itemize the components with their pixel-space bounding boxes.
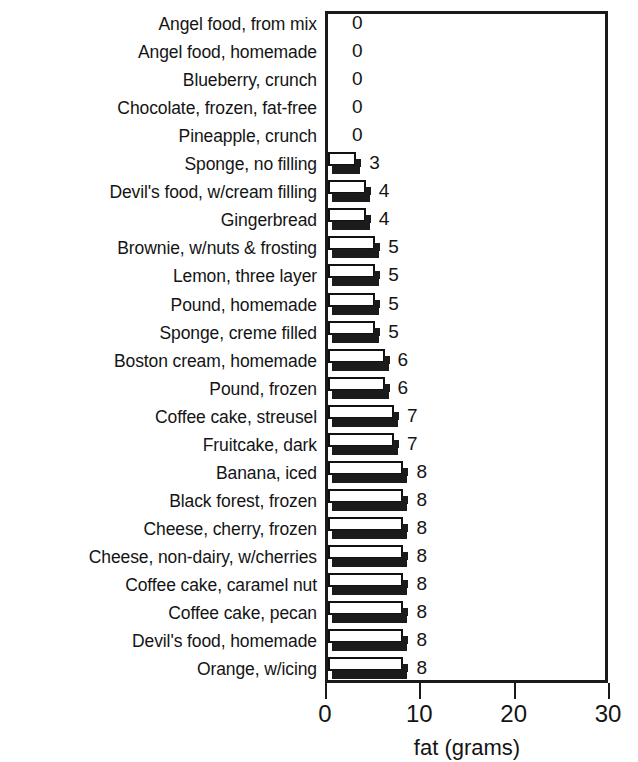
bar-value-label: 0: [352, 66, 363, 94]
bar-end-cap: [355, 159, 361, 167]
bar-shadow-face: [332, 670, 407, 679]
category-label: Orange, w/icing: [197, 655, 317, 683]
x-axis-tick-label: 30: [595, 700, 622, 728]
bar-end-cap: [402, 608, 408, 616]
bar-end-cap: [393, 440, 399, 448]
bar-face: [328, 321, 375, 335]
bar-value-label: 4: [379, 206, 390, 234]
category-label: Lemon, three layer: [173, 262, 317, 290]
bar-face: [328, 461, 403, 475]
bar-face: [328, 573, 403, 587]
bar-row: Cheese, cherry, frozen8: [0, 515, 638, 543]
x-axis-tick-label: 10: [406, 700, 433, 728]
category-label: Angel food, homemade: [138, 38, 317, 66]
category-label: Boston cream, homemade: [114, 347, 317, 375]
bar-row: Orange, w/icing8: [0, 655, 638, 683]
bar-face: [328, 293, 375, 307]
bar-value-label: 5: [388, 319, 399, 347]
bar-row: Pound, frozen6: [0, 375, 638, 403]
bar-row: Pound, homemade5: [0, 291, 638, 319]
bar-face: [328, 433, 394, 447]
bar-end-cap: [365, 187, 371, 195]
bar: [328, 178, 374, 206]
bar: [328, 515, 411, 543]
bar: [328, 431, 402, 459]
x-axis-title: fat (grams): [414, 735, 520, 761]
x-axis-tick: [608, 683, 610, 699]
bar-row: Lemon, three layer5: [0, 262, 638, 290]
bar-row: Devil's food, w/cream filling4: [0, 178, 638, 206]
bar-face: [328, 405, 394, 419]
bar-value-label: 5: [388, 262, 399, 290]
category-label: Pound, homemade: [171, 291, 317, 319]
bar: [328, 599, 411, 627]
bar-value-label: 8: [416, 599, 427, 627]
category-label: Sponge, no filling: [185, 150, 317, 178]
bar-row: Boston cream, homemade6: [0, 347, 638, 375]
bar-face: [328, 601, 403, 615]
bar-row: Black forest, frozen8: [0, 487, 638, 515]
bar-shadow-face: [332, 558, 407, 567]
bar-end-cap: [384, 356, 390, 364]
bar-shadow-face: [332, 277, 379, 286]
bar-end-cap: [402, 552, 408, 560]
bar-value-label: 8: [416, 487, 427, 515]
bar-row: Fruitcake, dark7: [0, 431, 638, 459]
bar-row: Pineapple, crunch0: [0, 122, 638, 150]
bar-value-label: 8: [416, 515, 427, 543]
bar-value-label: 0: [352, 122, 363, 150]
bar-face: [328, 629, 403, 643]
bar: [328, 262, 383, 290]
bar: [328, 627, 411, 655]
category-label: Blueberry, crunch: [183, 66, 317, 94]
bar-row: Gingerbread4: [0, 206, 638, 234]
x-axis-tick: [514, 683, 516, 699]
bar-end-cap: [374, 271, 380, 279]
bar-face: [328, 180, 366, 194]
category-label: Cheese, cherry, frozen: [143, 515, 317, 543]
category-label: Pineapple, crunch: [179, 122, 317, 150]
category-label: Pound, frozen: [209, 375, 317, 403]
bar-end-cap: [402, 580, 408, 588]
bar-value-label: 6: [398, 375, 409, 403]
category-label: Devil's food, w/cream filling: [109, 178, 317, 206]
bar-shadow-face: [332, 446, 398, 455]
category-label: Gingerbread: [221, 206, 317, 234]
bar-value-label: 7: [407, 431, 418, 459]
category-label: Brownie, w/nuts & frosting: [117, 234, 317, 262]
bar-shadow-face: [332, 642, 407, 651]
bar-face: [328, 377, 385, 391]
bar: [328, 571, 411, 599]
bar-face: [328, 657, 403, 671]
bar-shadow-face: [332, 502, 407, 511]
bar-value-label: 5: [388, 291, 399, 319]
bar-shadow-face: [332, 306, 379, 315]
bar-row: Brownie, w/nuts & frosting5: [0, 234, 638, 262]
bar: [328, 347, 393, 375]
bar-row: Banana, iced8: [0, 459, 638, 487]
bar-end-cap: [374, 243, 380, 251]
x-axis-tick-label: 20: [500, 700, 527, 728]
bar-row: Devil's food, homemade8: [0, 627, 638, 655]
bar-value-label: 8: [416, 571, 427, 599]
bar-end-cap: [374, 300, 380, 308]
bar-shadow-face: [332, 362, 389, 371]
bar-value-label: 8: [416, 655, 427, 683]
bar-row: Cheese, non-dairy, w/cherries8: [0, 543, 638, 571]
category-label: Fruitcake, dark: [203, 431, 317, 459]
bar: [328, 375, 393, 403]
bar-shadow-face: [332, 474, 407, 483]
bar-row: Sponge, no filling3: [0, 150, 638, 178]
bar-face: [328, 545, 403, 559]
bar-shadow-face: [332, 530, 407, 539]
bar: [328, 150, 364, 178]
bar-shadow-face: [332, 614, 407, 623]
bar-value-label: 6: [398, 347, 409, 375]
bar-row: Coffee cake, caramel nut8: [0, 571, 638, 599]
bar-face: [328, 517, 403, 531]
bar-value-label: 3: [369, 150, 380, 178]
bar: [328, 543, 411, 571]
bar-row: Sponge, creme filled5: [0, 319, 638, 347]
bar-row: Blueberry, crunch0: [0, 66, 638, 94]
bar-value-label: 8: [416, 459, 427, 487]
